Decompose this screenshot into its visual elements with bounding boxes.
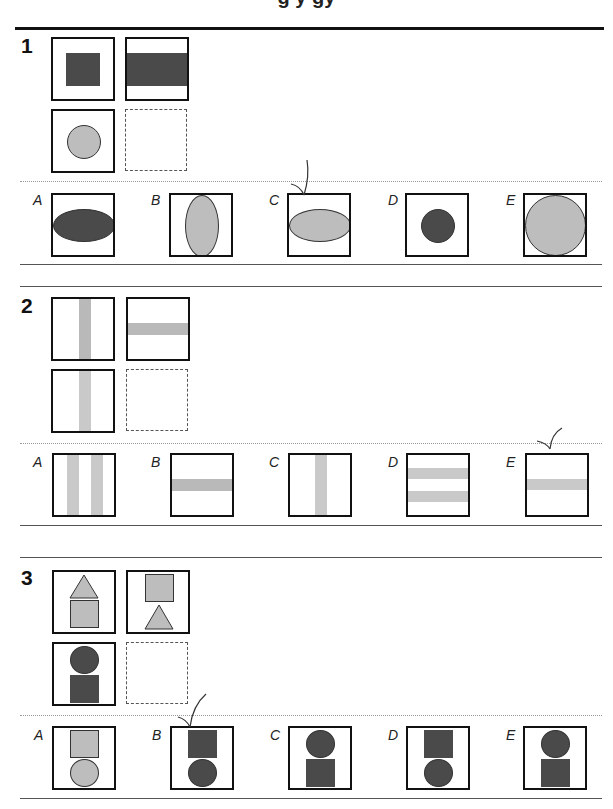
matrix-cell-top-left: [52, 570, 116, 634]
light-triangle-shape: [69, 574, 99, 599]
option-e[interactable]: [525, 453, 589, 517]
page-heading-fragment: g y gy: [0, 0, 613, 9]
option-label: B: [151, 454, 160, 470]
option-label: A: [33, 192, 42, 208]
matrix-cell-bottom-left: [52, 642, 116, 706]
options-divider: [20, 443, 602, 444]
option-a[interactable]: [52, 453, 116, 517]
dark-square-shape: [306, 759, 335, 787]
dark-circle-shape: [70, 646, 99, 674]
matrix-cell-top-right: [126, 297, 190, 361]
option-label: D: [388, 727, 398, 743]
option-b[interactable]: [169, 193, 233, 257]
handwritten-check-icon: [290, 160, 320, 200]
option-c[interactable]: [288, 453, 352, 517]
vertical-bar-shape: [79, 299, 91, 359]
horizontal-bar-shape: [172, 479, 232, 491]
option-label: E: [506, 454, 515, 470]
light-square-shape: [70, 600, 99, 628]
option-b[interactable]: [170, 453, 234, 517]
horizontal-light-bar-shape: [527, 479, 587, 490]
option-d[interactable]: [406, 726, 470, 790]
option-label: D: [388, 192, 398, 208]
dark-square-shape: [541, 759, 570, 787]
section-rule: [20, 798, 602, 799]
option-c[interactable]: [287, 193, 351, 257]
light-circle-shape: [70, 759, 99, 787]
light-ellipse-shape: [289, 209, 351, 242]
question-number: 3: [21, 566, 33, 590]
options-divider: [20, 715, 602, 716]
matrix-cell-top-left: [51, 297, 115, 361]
horizontal-light-bar-shape: [408, 468, 468, 479]
option-a[interactable]: [51, 193, 115, 257]
handwritten-check-icon: [176, 693, 210, 733]
matrix-cell-top-right: [125, 37, 189, 101]
vertical-light-bar-shape: [79, 371, 91, 431]
section-rule: [20, 286, 602, 287]
option-label: A: [33, 454, 42, 470]
option-label: B: [152, 727, 161, 743]
question-number: 1: [21, 34, 33, 58]
dark-band-shape: [127, 53, 187, 86]
vertical-light-bar-shape: [91, 455, 103, 515]
option-a[interactable]: [52, 726, 116, 790]
option-e[interactable]: [523, 193, 587, 257]
option-e[interactable]: [523, 726, 587, 790]
dark-circle-shape: [421, 209, 455, 243]
section-rule: [20, 264, 602, 265]
vertical-light-bar-shape: [67, 455, 79, 515]
matrix-cell-top-left: [51, 37, 115, 101]
option-label: D: [388, 454, 398, 470]
horizontal-light-bar-shape: [408, 491, 468, 502]
dark-circle-shape: [188, 759, 217, 787]
option-label: C: [269, 192, 279, 208]
dark-square-shape: [188, 730, 217, 758]
option-label: E: [506, 192, 515, 208]
option-d[interactable]: [405, 193, 469, 257]
light-square-shape: [70, 730, 99, 758]
option-d[interactable]: [406, 453, 470, 517]
dark-square-shape: [424, 730, 453, 758]
question-number: 2: [21, 294, 33, 318]
light-triangle-shape: [144, 604, 174, 630]
matrix-cell-bottom-left: [51, 369, 115, 433]
option-label: C: [270, 727, 280, 743]
option-c[interactable]: [288, 726, 352, 790]
vertical-light-bar-shape: [315, 455, 327, 515]
option-b[interactable]: [170, 726, 234, 790]
horizontal-bar-shape: [128, 323, 188, 335]
matrix-cell-bottom-left: [51, 109, 115, 173]
handwritten-check-icon: [535, 427, 565, 457]
section-rule: [20, 525, 602, 526]
light-square-shape: [145, 574, 174, 602]
dark-circle-shape: [424, 759, 453, 787]
option-label: E: [506, 727, 515, 743]
dark-circle-shape: [306, 730, 335, 758]
large-light-circle-shape: [525, 195, 586, 256]
dark-square-shape: [66, 53, 100, 86]
dark-square-shape: [70, 675, 99, 703]
matrix-cell-answer-slot: [126, 369, 188, 431]
section-rule: [20, 557, 602, 558]
light-circle-shape: [67, 125, 101, 159]
matrix-cell-answer-slot: [125, 109, 187, 171]
light-vertical-ellipse-shape: [185, 195, 219, 257]
matrix-cell-top-right: [126, 570, 190, 634]
dark-ellipse-shape: [53, 209, 115, 242]
header-rule: [15, 27, 604, 30]
option-label: B: [151, 192, 160, 208]
dark-circle-shape: [541, 730, 570, 758]
option-label: A: [34, 727, 43, 743]
option-label: C: [269, 454, 279, 470]
